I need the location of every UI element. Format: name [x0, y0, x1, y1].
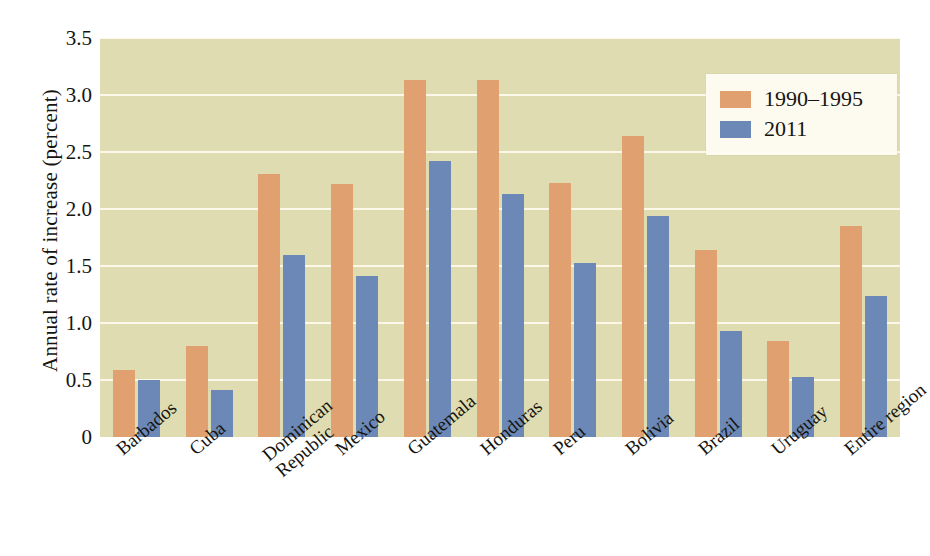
- bar: [574, 263, 596, 437]
- legend-label: 1990–1995: [764, 88, 863, 110]
- x-axis-tick-labels: BarbadosCubaDominican RepublicMexicoGuat…: [100, 443, 910, 556]
- legend: 1990–19952011: [706, 74, 897, 155]
- bar: [695, 250, 717, 437]
- bar: [622, 136, 644, 437]
- bar: [767, 341, 789, 437]
- legend-item: 1990–1995: [720, 84, 863, 114]
- bar: [283, 255, 305, 437]
- y-axis-tick-label: 0.5: [40, 368, 92, 393]
- legend-swatch-icon: [720, 91, 751, 108]
- y-axis-tick-label: 2.5: [40, 140, 92, 165]
- y-axis-tick-labels: 00.51.01.52.02.53.03.5: [40, 38, 92, 437]
- y-axis-tick-label: 3.0: [40, 83, 92, 108]
- y-axis-tick-label: 3.5: [40, 26, 92, 51]
- bar: [647, 216, 669, 437]
- y-axis-tick-label: 2.0: [40, 197, 92, 222]
- bar: [549, 183, 571, 437]
- bar: [258, 174, 280, 437]
- bar: [840, 226, 862, 437]
- bar: [429, 161, 451, 437]
- bar: [477, 80, 499, 437]
- legend-label: 2011: [764, 118, 807, 140]
- bar: [186, 346, 208, 437]
- y-axis-tick-label: 1.0: [40, 311, 92, 336]
- y-axis-tick-label: 0: [40, 425, 92, 450]
- bar: [404, 80, 426, 437]
- y-axis-tick-label: 1.5: [40, 254, 92, 279]
- bar: [502, 194, 524, 437]
- legend-swatch-icon: [720, 121, 751, 138]
- bar: [331, 184, 353, 437]
- legend-item: 2011: [720, 114, 863, 144]
